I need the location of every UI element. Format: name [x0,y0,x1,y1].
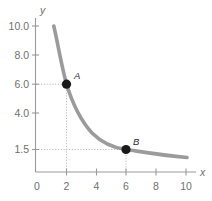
y-tick-label-8: 8.0 [14,49,29,61]
x-tick-labels: 0 2 4 6 8 10 [34,180,192,192]
data-point-b-label: B [133,136,140,147]
chart-svg: 10.0 8.0 6.0 4.0 1.5 0 2 4 6 8 10 y x A … [0,0,212,201]
y-tick-label-6: 6.0 [14,78,29,90]
data-point-b [121,145,130,154]
guide-lines [36,84,127,172]
y-tick-label-4: 4.0 [14,107,29,119]
y-tick-label-1-5: 1.5 [14,143,29,155]
y-tick-label-10: 10.0 [9,20,30,32]
y-axis-label: y [39,4,46,16]
x-axis-label: x [199,166,206,178]
hyperbola-curve [54,26,187,158]
curve-series [54,26,187,158]
x-tick-label-0: 0 [34,180,40,192]
x-tick-label-6: 6 [123,180,129,192]
data-point-a-label: A [73,70,80,81]
x-tick-label-10: 10 [180,180,192,192]
x-tick-label-8: 8 [153,180,159,192]
x-tick-label-2: 2 [64,180,70,192]
chart-figure: 10.0 8.0 6.0 4.0 1.5 0 2 4 6 8 10 y x A … [0,0,212,201]
x-tick-label-4: 4 [94,180,100,192]
y-tick-labels: 10.0 8.0 6.0 4.0 1.5 [9,20,30,156]
data-point-a [62,80,71,89]
